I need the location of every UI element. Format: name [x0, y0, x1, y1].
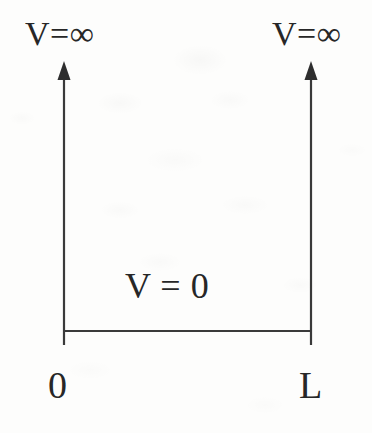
label-wall-left: V=∞: [25, 17, 94, 51]
label-well-interior: V = 0: [125, 268, 209, 304]
right-wall-arrowhead: [305, 61, 318, 80]
left-wall-arrowhead: [58, 61, 71, 80]
left-wall-arrow: [58, 61, 71, 345]
potential-well-figure: V=∞ V=∞ V = 0 0 L: [0, 0, 372, 433]
right-wall-arrow: [305, 61, 318, 345]
label-wall-right: V=∞: [272, 17, 341, 51]
label-wall-right-text: V=∞: [272, 15, 341, 52]
label-axis-origin: 0: [48, 366, 68, 404]
label-wall-left-text: V=∞: [25, 15, 94, 52]
label-axis-origin-text: 0: [48, 364, 68, 406]
label-well-interior-text: V = 0: [125, 266, 209, 306]
label-axis-length-text: L: [299, 364, 323, 406]
label-axis-length: L: [299, 366, 323, 404]
